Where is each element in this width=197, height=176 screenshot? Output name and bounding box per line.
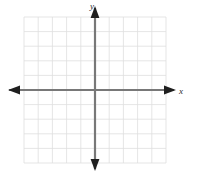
coordinate-plane-figure: x y bbox=[0, 0, 197, 176]
coordinate-plane-svg: x y bbox=[0, 0, 197, 176]
y-axis-label: y bbox=[89, 1, 94, 11]
x-axis-label: x bbox=[178, 86, 183, 96]
